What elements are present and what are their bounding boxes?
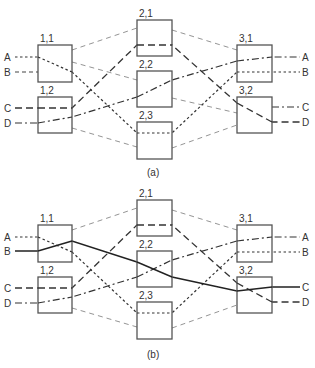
label-3-2: 3,2 bbox=[239, 265, 253, 276]
output-a: A bbox=[302, 52, 309, 63]
label-2-2: 2,2 bbox=[139, 59, 153, 70]
switch-3-2 bbox=[237, 277, 272, 313]
caption-a: (a) bbox=[147, 167, 159, 178]
switch-2-3 bbox=[137, 122, 172, 159]
input-a: A bbox=[4, 52, 11, 63]
label-2-2: 2,2 bbox=[139, 239, 153, 250]
switch-2-3 bbox=[137, 302, 172, 339]
output-b: B bbox=[302, 247, 309, 258]
label-3-1: 3,1 bbox=[239, 33, 253, 44]
switch-1-1 bbox=[38, 225, 72, 262]
input-c: C bbox=[4, 103, 11, 114]
label-2-3: 2,3 bbox=[139, 290, 153, 301]
output-a: A bbox=[302, 232, 309, 243]
input-b: B bbox=[4, 67, 11, 78]
switch-3-1 bbox=[237, 225, 272, 262]
switch-1-1 bbox=[38, 45, 72, 82]
output-d: D bbox=[302, 117, 309, 128]
output-d: D bbox=[302, 297, 309, 308]
label-3-2: 3,2 bbox=[239, 85, 253, 96]
label-1-2: 1,2 bbox=[40, 265, 54, 276]
switch-1-2 bbox=[38, 97, 72, 133]
switch-2-1 bbox=[137, 20, 172, 56]
input-d: D bbox=[4, 298, 11, 309]
switch-2-1 bbox=[137, 200, 172, 236]
input-b: B bbox=[4, 246, 11, 257]
input-d: D bbox=[4, 118, 11, 129]
output-b: B bbox=[302, 67, 309, 78]
input-c: C bbox=[4, 283, 11, 294]
panel-a: 1,1 1,2 2,1 2,2 2,3 3,1 3,2 A B C D A B … bbox=[4, 8, 309, 178]
caption-b: (b) bbox=[147, 349, 159, 360]
label-1-1: 1,1 bbox=[40, 33, 54, 44]
label-1-1: 1,1 bbox=[40, 213, 54, 224]
label-2-1: 2,1 bbox=[139, 188, 153, 199]
switch-1-2 bbox=[38, 277, 72, 313]
switch-3-1 bbox=[237, 45, 272, 82]
three-stage-switching-network-diagram: 1,1 1,2 2,1 2,2 2,3 3,1 3,2 A B C D A B … bbox=[0, 0, 315, 368]
label-2-3: 2,3 bbox=[139, 110, 153, 121]
panel-b: 1,1 1,2 2,1 2,2 2,3 3,1 3,2 A B C D A B … bbox=[4, 188, 309, 360]
label-3-1: 3,1 bbox=[239, 213, 253, 224]
switch-3-2 bbox=[237, 97, 272, 133]
output-c: C bbox=[302, 282, 309, 293]
output-c: C bbox=[302, 102, 309, 113]
label-2-1: 2,1 bbox=[139, 8, 153, 19]
label-1-2: 1,2 bbox=[40, 85, 54, 96]
input-a: A bbox=[4, 232, 11, 243]
